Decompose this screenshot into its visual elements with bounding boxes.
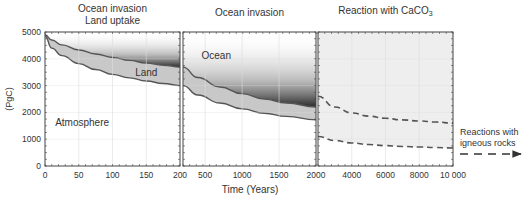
plot-area (45, 32, 180, 166)
region-label: Land (135, 67, 157, 78)
x-tick-label: 200 (173, 170, 187, 180)
y-tick-label: 4000 (22, 54, 41, 64)
annotation-line-2: igneous rocks (460, 138, 516, 148)
y-tick-label: 5000 (22, 27, 41, 37)
chart-svg: 050100150200Ocean invasionLand uptakeLan… (0, 0, 527, 203)
x-tick-label: 500 (198, 170, 212, 180)
x-tick-label: 2000 (307, 170, 326, 180)
y-axis-label: (PgC) (4, 87, 14, 111)
panel-1: 050100150200Ocean invasionLand uptakeLan… (43, 3, 188, 180)
panel-title: Ocean invasion (78, 3, 147, 14)
x-tick-label: 6000 (376, 170, 395, 180)
panel-3: 40006000800010 000Reaction with CaCO3 (318, 5, 466, 180)
igneous-rocks-annotation: Reactions with igneous rocks (460, 127, 521, 154)
region-label: Atmosphere (55, 117, 109, 128)
x-tick-label: 1500 (270, 170, 289, 180)
plot-area (318, 32, 453, 166)
x-tick-label: 10 000 (440, 170, 466, 180)
y-tick-label: 0 (36, 161, 41, 171)
y-tick-label: 1000 (22, 134, 41, 144)
annotation-line-1: Reactions with (460, 127, 519, 137)
region-label: Ocean (202, 50, 231, 61)
y-tick-label: 2000 (22, 107, 41, 117)
panels: 050100150200Ocean invasionLand uptakeLan… (22, 3, 466, 180)
panel-title: Reaction with CaCO3 (338, 5, 433, 17)
panel-2: 500100015002000Ocean invasionOcean (183, 7, 326, 180)
x-tick-label: 0 (43, 170, 48, 180)
panel-title: Ocean invasion (215, 7, 284, 18)
x-tick-label: 100 (105, 170, 119, 180)
panel-title: Land uptake (85, 15, 140, 26)
x-tick-label: 50 (74, 170, 84, 180)
x-tick-label: 1000 (233, 170, 252, 180)
x-tick-label: 4000 (342, 170, 361, 180)
x-axis-label: Time (Years) (222, 184, 279, 195)
x-tick-label: 150 (139, 170, 153, 180)
y-tick-label: 3000 (22, 81, 41, 91)
figure: 050100150200Ocean invasionLand uptakeLan… (0, 0, 527, 203)
x-tick-label: 8000 (410, 170, 429, 180)
